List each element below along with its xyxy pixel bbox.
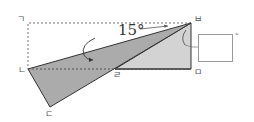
angle-label: 15° [118,23,145,38]
vertex-label-bottom: ㄷ [45,110,53,119]
vertex-label-middle: ㄹ [113,71,121,80]
vertex-label-top-left: ㄱ [17,15,25,24]
vertex-label-left: ㄴ [18,66,26,75]
vertex-label-bottom-right: ㅁ [194,68,202,77]
vertex-label-top-right: ㅂ [194,15,202,24]
answer-input-box[interactable] [198,34,233,62]
degree-unit: ° [235,32,239,40]
arrowhead-icon [164,25,168,28]
